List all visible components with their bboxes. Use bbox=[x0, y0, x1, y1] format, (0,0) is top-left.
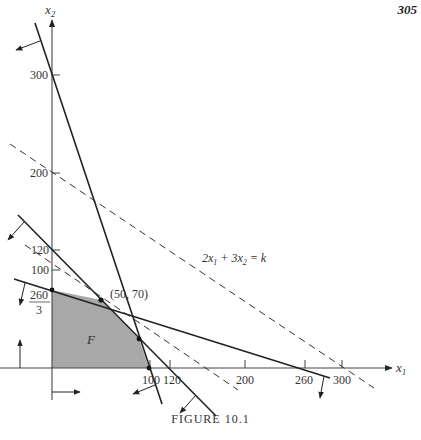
x-tick-label-260: 260 bbox=[295, 373, 313, 387]
direction-arrow-120-bottom bbox=[180, 395, 196, 413]
direction-arrow-flat-right bbox=[320, 376, 324, 398]
x-tick-label-300: 300 bbox=[333, 373, 351, 387]
x-tick-label-120: 120 bbox=[163, 373, 181, 387]
vertex-100-0 bbox=[147, 366, 152, 371]
y-tick-label-200: 200 bbox=[30, 166, 48, 180]
y-tick-label-260-den: 3 bbox=[36, 303, 42, 317]
direction-arrow-flat-left bbox=[20, 283, 25, 305]
figure-caption: FIGURE 10.1 bbox=[0, 412, 421, 427]
optimal-point-label: (50, 70) bbox=[110, 287, 148, 301]
direction-arrow-steep-top bbox=[16, 41, 40, 50]
x-tick-label-200: 200 bbox=[236, 373, 254, 387]
objective-function-label: 2x1 + 3x2 = k bbox=[202, 251, 267, 267]
vertex-50-70 bbox=[98, 297, 103, 302]
x-tick-label-100: 100 bbox=[142, 373, 160, 387]
vertex-0-260-3 bbox=[50, 288, 55, 293]
y-tick-label-300: 300 bbox=[30, 68, 48, 82]
linear-program-figure: x2 x1 300 200 120 100 260 3 100 120 200 … bbox=[0, 0, 421, 440]
feasible-region-label: F bbox=[86, 332, 96, 347]
vertex-90-30 bbox=[137, 337, 142, 342]
direction-arrow-120-top bbox=[8, 222, 24, 240]
y-tick-label-260-num: 260 bbox=[30, 288, 48, 302]
x2-axis-label: x2 bbox=[44, 2, 56, 19]
y-tick-label-100: 100 bbox=[31, 263, 49, 277]
y-tick-label-120: 120 bbox=[31, 243, 49, 257]
x1-axis-label: x1 bbox=[395, 360, 406, 377]
